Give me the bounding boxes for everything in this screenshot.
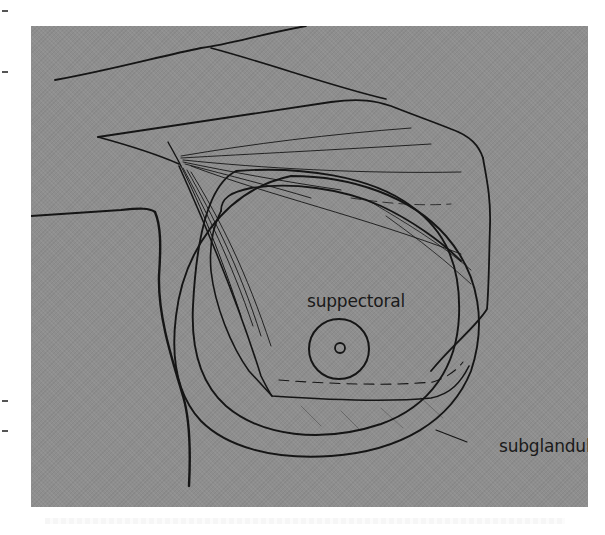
illustration-drawing: [31, 26, 588, 507]
muscle-fiber: [371, 202, 471, 270]
subglandular-label: subglandular: [499, 438, 588, 455]
bleed-through-text: [45, 518, 565, 524]
hatch-line: [381, 408, 403, 428]
pectoral-tendon-lower: [98, 137, 179, 164]
torso-side-contour: [155, 212, 190, 486]
margin-tick: [2, 400, 8, 402]
areola: [309, 319, 369, 379]
hatch-line: [341, 411, 361, 431]
margin-tick: [2, 430, 8, 432]
hatch-line: [421, 398, 443, 418]
pectoral-inner-curve: [221, 186, 461, 261]
muscle-fiber: [386, 216, 471, 284]
anatomical-illustration: suppectoral subglandular: [31, 26, 588, 507]
suppectoral-label: suppectoral: [307, 293, 405, 310]
pectoral-lateral-border: [179, 166, 272, 396]
upper-arm-contour: [55, 26, 306, 80]
pectoral-tendon-upper: [98, 100, 483, 158]
muscle-fiber: [191, 172, 271, 346]
margin-tick: [2, 71, 8, 73]
subglandular-leader-line: [436, 430, 467, 442]
page: suppectoral subglandular: [0, 0, 605, 535]
shoulder-contour: [211, 48, 386, 99]
muscle-fiber: [191, 166, 461, 254]
outer-implant-circle: [174, 176, 479, 457]
hatch-line: [301, 406, 321, 426]
breast-lateral-contour: [431, 158, 490, 371]
margin-tick: [2, 10, 8, 12]
nipple: [335, 343, 345, 353]
torso-upper-contour: [31, 209, 155, 216]
muscle-fiber: [181, 144, 431, 158]
